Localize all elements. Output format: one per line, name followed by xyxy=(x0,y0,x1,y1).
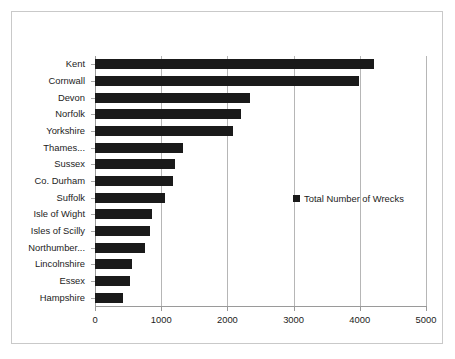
y-tickmark xyxy=(91,248,95,249)
bar[interactable] xyxy=(95,293,123,303)
x-tickmark-3000 xyxy=(294,306,295,311)
plot-area xyxy=(95,56,426,306)
category-label: Sussex xyxy=(54,159,91,168)
y-tickmark xyxy=(91,264,95,265)
x-tickmark-1000 xyxy=(161,306,162,311)
gridline-3000 xyxy=(294,56,295,306)
category-label: Yorkshire xyxy=(46,126,91,135)
x-tickmark-0 xyxy=(95,306,96,311)
x-tickmark-4000 xyxy=(360,306,361,311)
bar[interactable] xyxy=(95,109,241,119)
bar[interactable] xyxy=(95,76,359,86)
bar[interactable] xyxy=(95,243,145,253)
x-tick-label-0: 0 xyxy=(70,315,120,324)
bar[interactable] xyxy=(95,93,250,103)
category-label: Norfolk xyxy=(55,109,91,118)
y-tickmark xyxy=(91,81,95,82)
y-tickmark xyxy=(91,181,95,182)
y-tickmark xyxy=(91,281,95,282)
y-tickmark xyxy=(91,231,95,232)
x-tick-label-2000: 2000 xyxy=(202,315,252,324)
category-label: Devon xyxy=(58,93,91,102)
y-tickmark xyxy=(91,64,95,65)
bar[interactable] xyxy=(95,59,374,69)
category-label: Essex xyxy=(59,276,91,285)
x-axis-line xyxy=(95,306,427,307)
x-tickmark-5000 xyxy=(426,306,427,311)
y-tickmark xyxy=(91,148,95,149)
bar[interactable] xyxy=(95,276,130,286)
bar[interactable] xyxy=(95,226,150,236)
y-tickmark xyxy=(91,214,95,215)
category-axis-labels: KentCornwallDevonNorfolkYorkshireThames.… xyxy=(12,56,91,306)
bar[interactable] xyxy=(95,209,152,219)
category-label: Co. Durham xyxy=(34,176,91,185)
x-tickmark-2000 xyxy=(227,306,228,311)
category-label: Lincolnshire xyxy=(35,259,91,268)
x-tick-label-3000: 3000 xyxy=(269,315,319,324)
category-label: Northumber... xyxy=(28,243,91,252)
bar[interactable] xyxy=(95,193,165,203)
y-tickmark xyxy=(91,198,95,199)
y-tickmark xyxy=(91,98,95,99)
category-label: Thames... xyxy=(43,143,91,152)
chart-legend: Total Number of Wrecks xyxy=(293,194,404,203)
category-label: Hampshire xyxy=(40,293,91,302)
x-tick-label-5000: 5000 xyxy=(401,315,451,324)
x-tick-label-1000: 1000 xyxy=(136,315,186,324)
category-label: Suffolk xyxy=(57,193,92,202)
y-tickmark xyxy=(91,131,95,132)
legend-swatch-icon xyxy=(293,195,300,202)
bar[interactable] xyxy=(95,176,173,186)
y-tickmark xyxy=(91,298,95,299)
bar[interactable] xyxy=(95,159,175,169)
legend-label: Total Number of Wrecks xyxy=(304,194,404,203)
y-tickmark xyxy=(91,114,95,115)
x-tick-label-4000: 4000 xyxy=(335,315,385,324)
category-label: Kent xyxy=(66,59,91,68)
bar[interactable] xyxy=(95,259,132,269)
bar[interactable] xyxy=(95,143,183,153)
y-tickmark xyxy=(91,164,95,165)
category-label: Isles of Scilly xyxy=(31,226,91,235)
gridline-5000 xyxy=(426,56,427,306)
category-label: Cornwall xyxy=(49,76,91,85)
gridline-4000 xyxy=(360,56,361,306)
chart-figure: KentCornwallDevonNorfolkYorkshireThames.… xyxy=(11,11,443,344)
category-label: Isle of Wight xyxy=(33,209,91,218)
bar[interactable] xyxy=(95,126,233,136)
